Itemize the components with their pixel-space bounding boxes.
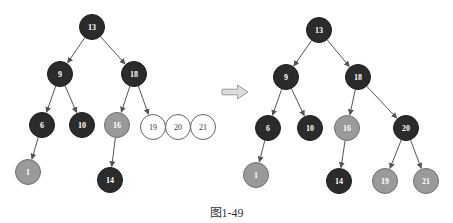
right-node-21: 21 (414, 169, 439, 194)
left-tree-before: 1391861016192021114 (16, 15, 216, 193)
node-label: 20 (174, 123, 182, 132)
right-node-18: 18 (346, 65, 371, 90)
left-edge-9-6 (46, 86, 55, 112)
right-edge-18-16 (350, 89, 356, 115)
left-node-21: 21 (191, 115, 216, 140)
node-label: 18 (130, 70, 138, 79)
node-label: 21 (422, 177, 430, 186)
left-node-10: 10 (70, 113, 95, 138)
right-edge-18-20 (367, 86, 397, 118)
right-node-14: 14 (327, 169, 352, 194)
node-label: 19 (149, 123, 157, 132)
left-edge-13-18 (100, 36, 125, 64)
left-node-16: 16 (105, 113, 130, 138)
left-edge-18-16 (121, 86, 130, 112)
node-label: 19 (381, 177, 389, 186)
node-label: 1 (254, 171, 258, 180)
left-edge-9-10 (65, 85, 77, 112)
right-node-1: 1 (244, 163, 269, 188)
left-node-9: 9 (48, 62, 73, 87)
left-edge-18-19 (138, 86, 148, 115)
transform-arrow-icon (222, 85, 248, 99)
node-label: 21 (199, 123, 207, 132)
right-edge-9-6 (272, 89, 281, 115)
node-label: 13 (88, 23, 96, 32)
right-node-16: 16 (335, 116, 360, 141)
node-label: 6 (266, 124, 270, 133)
node-label: 13 (315, 26, 323, 35)
node-label: 16 (343, 124, 351, 133)
node-label: 9 (284, 73, 288, 82)
red-black-tree-diagram: 1391861016192021114 1391861016201141921 (0, 0, 453, 223)
right-edge-20-21 (410, 140, 421, 169)
left-node-18: 18 (122, 62, 147, 87)
right-node-19: 19 (373, 169, 398, 194)
node-label: 18 (354, 73, 362, 82)
node-label: 14 (106, 176, 114, 185)
left-node-20: 20 (166, 115, 191, 140)
right-node-10: 10 (298, 116, 323, 141)
node-label: 20 (402, 124, 410, 133)
right-edge-16-14 (341, 140, 345, 167)
node-label: 16 (113, 121, 121, 130)
right-edge-20-19 (390, 140, 401, 169)
node-label: 10 (78, 121, 86, 130)
right-node-9: 9 (274, 65, 299, 90)
right-edge-13-9 (294, 40, 312, 66)
right-tree-after: 1391861016201141921 (244, 18, 439, 194)
right-edge-13-18 (327, 40, 349, 67)
right-node-20: 20 (394, 116, 419, 141)
node-label: 1 (26, 168, 30, 177)
left-node-13: 13 (80, 15, 105, 40)
left-edge-6-1 (32, 137, 39, 159)
right-edge-6-1 (259, 140, 265, 162)
node-label: 14 (335, 177, 343, 186)
right-node-13: 13 (307, 18, 332, 43)
left-edge-13-9 (68, 37, 85, 63)
left-node-1: 1 (16, 160, 41, 185)
node-label: 10 (306, 124, 314, 133)
left-node-19: 19 (141, 115, 166, 140)
left-node-6: 6 (30, 113, 55, 138)
node-label: 6 (40, 121, 44, 130)
figure-caption: 图1-49 (0, 203, 453, 221)
right-node-6: 6 (256, 116, 281, 141)
left-edge-16-14 (112, 137, 116, 166)
node-label: 9 (58, 70, 62, 79)
left-node-14: 14 (98, 168, 123, 193)
right-edge-9-10 (291, 88, 304, 115)
